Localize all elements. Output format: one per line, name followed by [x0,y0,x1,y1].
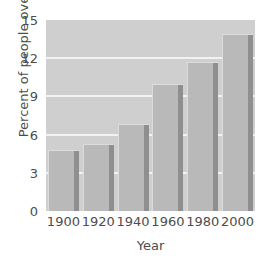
x-tick-label: 1960 [151,214,184,229]
bar-1980[interactable] [187,62,218,211]
x-tick-label: 1940 [117,214,150,229]
y-tick-label: 9 [30,89,38,104]
bar-shadow [74,151,79,211]
x-axis-tick-labels: 1900 1920 1940 1960 1980 2000 [46,214,255,234]
y-tick-label: 0 [30,204,38,219]
bar-shadow [213,63,218,211]
plot-area [46,20,255,211]
y-tick-label: 3 [30,165,38,180]
bar-chart-figure: Percent of people over 65 15 12 9 6 3 0 … [0,0,264,264]
y-tick-label: 6 [30,127,38,142]
x-tick-label: 1980 [186,214,219,229]
bar-shadow [248,35,253,211]
bar-shadow [109,145,114,211]
bar-shadow [178,85,183,211]
bar-1920[interactable] [83,144,114,211]
x-tick-label: 2000 [221,214,254,229]
bar-1960[interactable] [152,84,183,211]
x-tick-label: 1900 [47,214,80,229]
y-axis-tick-labels: 15 12 9 6 3 0 [0,20,42,211]
x-tick-label: 1920 [82,214,115,229]
bar-shadow [144,125,149,211]
y-tick-label: 15 [21,13,38,28]
x-axis-title: Year [46,238,255,253]
bar-2000[interactable] [222,34,253,211]
bar-1940[interactable] [118,124,149,211]
y-tick-label: 12 [21,51,38,66]
bar-1900[interactable] [48,150,79,211]
